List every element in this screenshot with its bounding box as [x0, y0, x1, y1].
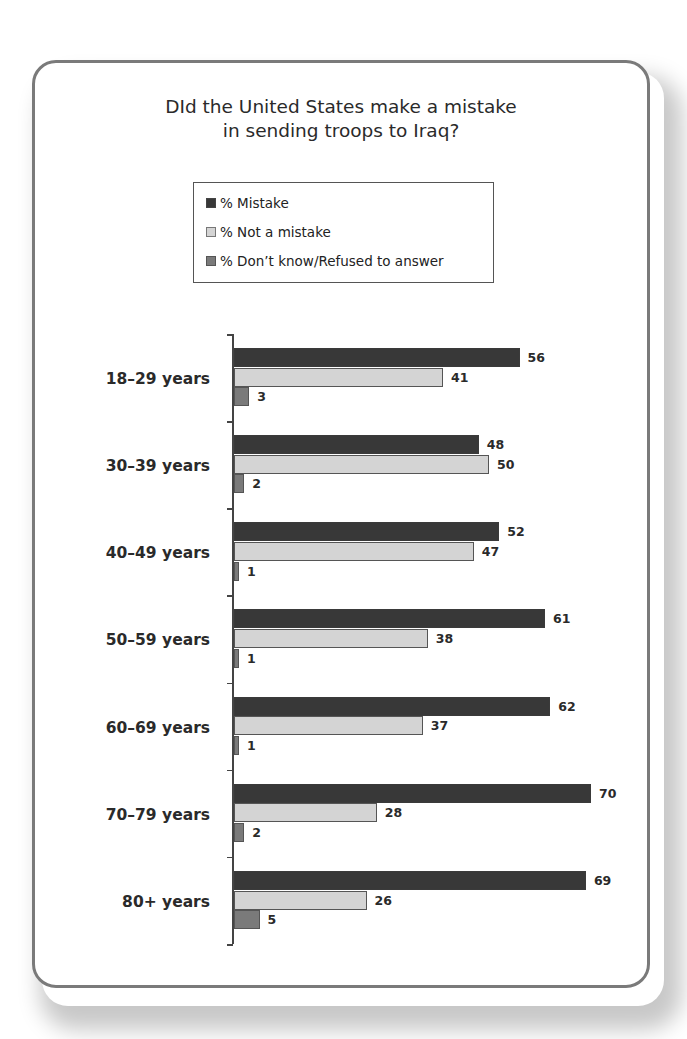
bar-dont-know — [234, 474, 244, 493]
bar-mistake — [234, 784, 591, 803]
value-label-not-mistake: 47 — [482, 542, 499, 561]
bar-not-mistake — [234, 629, 428, 648]
value-label-mistake: 69 — [594, 871, 611, 890]
bar-not-mistake — [234, 891, 367, 910]
category-label: 30–39 years — [40, 456, 210, 476]
bar-mistake — [234, 522, 499, 541]
bar-dont-know — [234, 562, 239, 581]
bar-dont-know — [234, 736, 239, 755]
category-label: 80+ years — [40, 892, 210, 912]
bar-mistake — [234, 348, 520, 367]
category-label: 40–49 years — [40, 543, 210, 563]
bar-dont-know — [234, 910, 260, 929]
legend-label-mistake: % Mistake — [220, 195, 289, 211]
value-label-dont-know: 2 — [252, 474, 261, 493]
value-label-mistake: 61 — [553, 609, 570, 628]
bar-not-mistake — [234, 803, 377, 822]
axis-tick — [227, 421, 233, 423]
category-label: 18–29 years — [40, 369, 210, 389]
legend-item-not-mistake: % Not a mistake — [206, 222, 331, 242]
legend: % Mistake % Not a mistake % Don’t know/R… — [193, 182, 494, 283]
legend-swatch-dont-know — [206, 256, 216, 266]
legend-swatch-mistake — [206, 198, 216, 208]
axis-tick — [227, 857, 233, 859]
value-label-not-mistake: 41 — [451, 368, 468, 387]
chart-title-line-1: DId the United States make a mistake — [32, 95, 650, 119]
bar-dont-know — [234, 387, 249, 406]
bar-not-mistake — [234, 455, 489, 474]
axis-tick — [227, 770, 233, 772]
bar-dont-know — [234, 649, 239, 668]
chart-title-line-2: in sending troops to Iraq? — [32, 119, 650, 143]
bar-mistake — [234, 609, 545, 628]
value-label-not-mistake: 37 — [431, 716, 448, 735]
value-label-not-mistake: 50 — [497, 455, 514, 474]
axis-tick — [227, 595, 233, 597]
chart-title: DId the United States make a mistake in … — [32, 95, 650, 143]
legend-item-dont-know: % Don’t know/Refused to answer — [206, 251, 444, 271]
value-label-dont-know: 1 — [247, 736, 256, 755]
category-label: 60–69 years — [40, 718, 210, 738]
value-label-not-mistake: 26 — [375, 891, 392, 910]
value-label-mistake: 52 — [507, 522, 524, 541]
bar-not-mistake — [234, 716, 423, 735]
value-label-dont-know: 5 — [268, 910, 277, 929]
axis-tick — [227, 683, 233, 685]
value-label-dont-know: 3 — [257, 387, 266, 406]
bar-dont-know — [234, 823, 244, 842]
value-label-mistake: 62 — [558, 697, 575, 716]
legend-item-mistake: % Mistake — [206, 193, 289, 213]
value-label-dont-know: 2 — [252, 823, 261, 842]
legend-label-dont-know: % Don’t know/Refused to answer — [220, 253, 444, 269]
value-label-mistake: 56 — [528, 348, 545, 367]
bar-mistake — [234, 697, 550, 716]
axis-tick — [227, 334, 233, 336]
bar-not-mistake — [234, 368, 443, 387]
legend-swatch-not-mistake — [206, 227, 216, 237]
value-label-dont-know: 1 — [247, 562, 256, 581]
category-label: 70–79 years — [40, 805, 210, 825]
value-label-not-mistake: 38 — [436, 629, 453, 648]
axis-tick — [227, 944, 233, 946]
value-label-mistake: 70 — [599, 784, 616, 803]
axis-tick — [227, 508, 233, 510]
bar-not-mistake — [234, 542, 474, 561]
value-label-mistake: 48 — [487, 435, 504, 454]
value-label-dont-know: 1 — [247, 649, 256, 668]
bar-mistake — [234, 871, 586, 890]
bar-mistake — [234, 435, 479, 454]
category-label: 50–59 years — [40, 630, 210, 650]
legend-label-not-mistake: % Not a mistake — [220, 224, 331, 240]
value-label-not-mistake: 28 — [385, 803, 402, 822]
